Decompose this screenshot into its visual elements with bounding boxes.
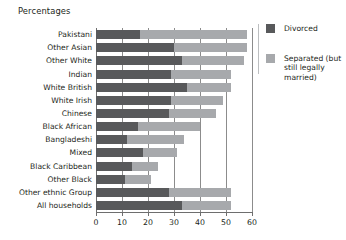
bar-segment [169, 109, 216, 118]
y-axis-label: Black Caribbean [0, 162, 92, 171]
bar-row [96, 56, 252, 65]
bar-row [96, 122, 252, 131]
y-axis-label: Pakistani [0, 30, 92, 39]
x-tick-label: 60 [247, 218, 257, 227]
x-tick-label: 40 [195, 218, 205, 227]
x-tick-10 [122, 212, 123, 216]
x-tick-label: 30 [169, 218, 179, 227]
gridline-60 [252, 28, 253, 212]
bar-segment [143, 148, 177, 157]
legend-swatch-icon [266, 24, 275, 33]
legend-label: Separated (but still legally married) [284, 54, 346, 83]
y-axis-label: Other White [0, 56, 92, 65]
bar-segment [171, 96, 223, 105]
x-tick-label: 10 [117, 218, 127, 227]
bar-row [96, 201, 252, 210]
bar-segment [125, 175, 151, 184]
y-axis-label: Indian [0, 70, 92, 79]
y-axis-label: Mixed [0, 148, 92, 157]
bar-row [96, 109, 252, 118]
bar-segment [96, 162, 132, 171]
y-axis-label: Other ethnic Group [0, 188, 92, 197]
bar-segment [187, 83, 231, 92]
bar-segment [182, 201, 231, 210]
x-tick-30 [174, 212, 175, 216]
y-axis-label: Other Asian [0, 43, 92, 52]
legend-label: Divorced [284, 24, 346, 34]
bar-segment [96, 148, 143, 157]
bar-segment [96, 201, 182, 210]
plot-area [96, 28, 252, 212]
bar-segment [140, 30, 247, 39]
y-axis-category-labels: PakistaniOther AsianOther WhiteIndianWhi… [0, 28, 92, 212]
chart-title: Percentages [18, 6, 71, 16]
y-axis-label: Chinese [0, 109, 92, 118]
bar-segment [169, 188, 231, 197]
x-tick-label: 0 [94, 218, 99, 227]
bar-segment [132, 162, 158, 171]
x-tick-20 [148, 212, 149, 216]
bar-segment [96, 122, 138, 131]
bar-rows [96, 28, 252, 212]
bar-segment [96, 188, 169, 197]
bar-row [96, 43, 252, 52]
bar-segment [171, 70, 231, 79]
bar-segment [96, 96, 171, 105]
bar-row [96, 70, 252, 79]
y-axis-label: White British [0, 83, 92, 92]
bar-row [96, 135, 252, 144]
bar-row [96, 162, 252, 171]
y-axis-label: Other Black [0, 175, 92, 184]
bar-row [96, 83, 252, 92]
legend-divider [258, 24, 259, 74]
bar-row [96, 188, 252, 197]
bar-row [96, 148, 252, 157]
bar-row [96, 96, 252, 105]
bar-segment [96, 43, 174, 52]
y-axis-label: White Irish [0, 96, 92, 105]
x-tick-60 [252, 212, 253, 216]
bar-segment [182, 56, 244, 65]
bar-row [96, 30, 252, 39]
bar-segment [127, 135, 184, 144]
x-tick-0 [96, 212, 97, 216]
bar-segment [174, 43, 247, 52]
bar-segment [96, 56, 182, 65]
y-axis-label: Bangladeshi [0, 135, 92, 144]
bar-segment [96, 135, 127, 144]
x-tick-40 [200, 212, 201, 216]
bar-segment [96, 175, 125, 184]
x-tick-label: 50 [221, 218, 231, 227]
bar-segment [96, 83, 187, 92]
bar-segment [138, 122, 200, 131]
bar-chart: Percentages PakistaniOther AsianOther Wh… [0, 0, 346, 240]
x-tick-50 [226, 212, 227, 216]
bar-segment [96, 70, 171, 79]
x-tick-label: 20 [143, 218, 153, 227]
bar-row [96, 175, 252, 184]
bar-segment [96, 30, 140, 39]
y-axis-label: All households [0, 201, 92, 210]
bar-segment [96, 109, 169, 118]
y-axis-label: Black African [0, 122, 92, 131]
legend-swatch-icon [266, 54, 275, 63]
